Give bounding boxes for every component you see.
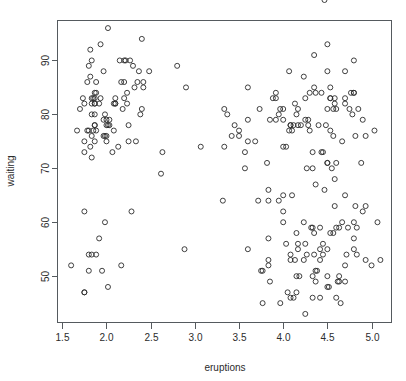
x-axis-tick-label: 3.0	[189, 332, 203, 343]
plot-background	[0, 0, 406, 381]
x-axis-tick-label: 4.0	[277, 332, 291, 343]
x-axis-tick-label: 1.5	[56, 332, 70, 343]
plot-root: 1.52.02.53.03.54.04.55.0 5060708090 erup…	[0, 0, 406, 381]
y-axis-tick-label: 50	[40, 271, 51, 283]
y-axis-tick-label: 70	[40, 163, 51, 175]
scatter-plot: 1.52.02.53.03.54.04.55.0 5060708090 erup…	[0, 0, 406, 381]
x-axis-tick-label: 3.5	[233, 332, 247, 343]
x-axis-tick-label: 2.0	[100, 332, 114, 343]
y-axis-tick-label: 80	[40, 109, 51, 121]
y-axis-title: waiting	[5, 155, 16, 187]
x-axis-tick-label: 4.5	[321, 332, 335, 343]
x-axis-tick-label: 5.0	[366, 332, 380, 343]
x-axis-title: eruptions	[204, 362, 245, 373]
y-axis-tick-label: 90	[40, 55, 51, 67]
x-axis-tick-label: 2.5	[145, 332, 159, 343]
y-axis-tick-label: 60	[40, 217, 51, 229]
